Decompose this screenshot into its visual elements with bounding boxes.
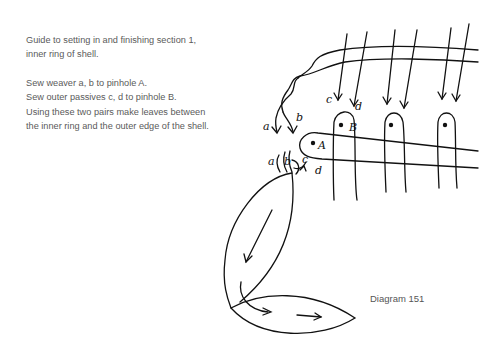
leaf-lower bbox=[231, 296, 355, 334]
label-pinhole-A: A bbox=[317, 139, 326, 152]
weaver-a-thread bbox=[276, 78, 298, 132]
outer-band-upper bbox=[298, 47, 478, 78]
lower-label-a: a bbox=[268, 155, 275, 168]
loop-3 bbox=[438, 113, 457, 188]
lace-diagram: a b c d A B a b c d bbox=[0, 0, 502, 353]
pinhole-B bbox=[339, 123, 343, 127]
label-b: b bbox=[296, 111, 303, 124]
label-d: d bbox=[355, 100, 362, 113]
label-c: c bbox=[326, 93, 332, 106]
diagram-label: Diagram 151 bbox=[370, 293, 424, 304]
leaf-upper bbox=[224, 173, 292, 308]
pinhole-A bbox=[311, 141, 315, 145]
loop-2 bbox=[385, 113, 406, 192]
label-pinhole-B: B bbox=[348, 121, 357, 134]
label-a: a bbox=[263, 120, 270, 133]
inner-ring bbox=[300, 133, 478, 168]
lower-label-d: d bbox=[315, 164, 322, 177]
lower-label-b: b bbox=[284, 155, 291, 168]
weaver-b-thread bbox=[283, 112, 293, 132]
lower-label-c: c bbox=[302, 153, 308, 166]
